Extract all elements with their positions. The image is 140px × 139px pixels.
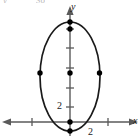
point-bottom-vertex <box>67 128 72 133</box>
point-center <box>67 70 72 75</box>
point-upper-co-point <box>67 26 72 31</box>
point-left-vertex <box>37 70 42 75</box>
x-axis-arrow-left-icon <box>2 118 11 125</box>
y-axis-tick-label-2: 2 <box>57 101 62 111</box>
ellipse-graph-figure: y 36 y x 2 2 <box>0 0 140 139</box>
y-axis-label: y <box>71 2 75 12</box>
point-top-vertex <box>67 19 72 24</box>
point-right-vertex <box>97 70 102 75</box>
coordinate-plane-svg <box>0 0 140 139</box>
x-axis-tick-label-2: 2 <box>88 127 93 137</box>
point-origin <box>67 119 72 124</box>
x-axis-label: x <box>133 116 137 126</box>
